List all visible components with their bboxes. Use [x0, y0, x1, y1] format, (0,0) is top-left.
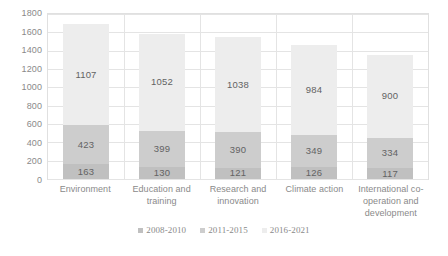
bar-segment[interactable]: 163 [63, 164, 109, 179]
bar-stack: 984349126 [291, 45, 337, 179]
legend-swatch-icon [200, 228, 205, 233]
legend-label: 2011-2015 [208, 226, 248, 235]
bar-segment[interactable]: 399 [139, 131, 185, 168]
legend-item[interactable]: 2016-2021 [262, 226, 310, 235]
bars-layer: 1107423163105239913010383901219843491269… [48, 14, 428, 179]
legend-label: 2008-2010 [146, 226, 186, 235]
bar-value-label: 121 [230, 168, 246, 178]
bar-group[interactable]: 1107423163 [48, 14, 124, 179]
x-axis-category-label: Education and training [123, 183, 199, 219]
plot-area: 1107423163105239913010383901219843491269… [47, 13, 429, 180]
y-axis: 180016001400120010008006004002000 [0, 13, 46, 180]
bar-value-label: 1052 [151, 77, 173, 87]
bar-segment[interactable]: 423 [63, 125, 109, 164]
bar-value-label: 349 [306, 146, 322, 156]
legend-swatch-icon [138, 228, 143, 233]
bar-segment[interactable]: 334 [367, 138, 413, 169]
bar-segment[interactable]: 117 [367, 168, 413, 179]
y-axis-tick-label: 1400 [22, 46, 42, 55]
y-axis-tick-label: 1600 [22, 27, 42, 36]
bar-value-label: 117 [382, 169, 398, 179]
bar-value-label: 984 [306, 85, 322, 95]
bar-value-label: 1038 [227, 80, 249, 90]
y-axis-tick-label: 1200 [22, 64, 42, 73]
bar-value-label: 163 [78, 167, 94, 177]
bar-segment[interactable]: 349 [291, 135, 337, 167]
y-axis-tick-label: 1800 [22, 9, 42, 18]
bar-segment[interactable]: 1052 [139, 34, 185, 130]
stacked-bar-chart: 180016001400120010008006004002000 110742… [0, 0, 448, 256]
bar-segment[interactable]: 984 [291, 45, 337, 135]
x-axis-category-label: International co-operation and developme… [353, 183, 429, 219]
legend-label: 2016-2021 [270, 226, 310, 235]
chart-legend: 2008-20102011-20152016-2021 [0, 226, 448, 235]
x-axis: EnvironmentEducation and trainingResearc… [47, 183, 429, 219]
bar-value-label: 130 [154, 168, 170, 178]
bar-segment[interactable]: 390 [215, 132, 261, 168]
bar-value-label: 399 [154, 144, 170, 154]
bar-value-label: 334 [382, 148, 398, 158]
bar-value-label: 900 [382, 91, 398, 101]
bar-value-label: 423 [78, 140, 94, 150]
gridline-horizontal [48, 179, 428, 180]
bar-stack: 1038390121 [215, 37, 261, 179]
bar-value-label: 390 [230, 145, 246, 155]
bar-stack: 1107423163 [63, 24, 109, 179]
y-axis-tick-label: 600 [27, 120, 42, 129]
bar-group[interactable]: 1038390121 [200, 14, 276, 179]
bar-value-label: 126 [306, 168, 322, 178]
x-axis-category-label: Research and innovation [200, 183, 276, 219]
y-axis-tick-label: 200 [27, 157, 42, 166]
y-axis-tick-label: 800 [27, 101, 42, 110]
bar-segment[interactable]: 121 [215, 168, 261, 179]
bar-stack: 900334117 [367, 55, 413, 179]
bar-segment[interactable]: 126 [291, 167, 337, 179]
x-axis-category-label: Climate action [276, 183, 352, 219]
bar-value-label: 1107 [75, 70, 96, 80]
bar-stack: 1052399130 [139, 34, 185, 179]
x-axis-category-label: Environment [47, 183, 123, 219]
legend-item[interactable]: 2008-2010 [138, 226, 186, 235]
legend-item[interactable]: 2011-2015 [200, 226, 248, 235]
bar-segment[interactable]: 1107 [63, 24, 109, 125]
bar-segment[interactable]: 1038 [215, 37, 261, 132]
bar-group[interactable]: 1052399130 [124, 14, 200, 179]
y-axis-tick-label: 0 [37, 176, 42, 185]
bar-group[interactable]: 984349126 [276, 14, 352, 179]
legend-swatch-icon [262, 228, 267, 233]
y-axis-tick-label: 400 [27, 138, 42, 147]
bar-group[interactable]: 900334117 [352, 14, 428, 179]
bar-segment[interactable]: 900 [367, 55, 413, 138]
y-axis-tick-label: 1000 [22, 83, 42, 92]
bar-segment[interactable]: 130 [139, 167, 185, 179]
